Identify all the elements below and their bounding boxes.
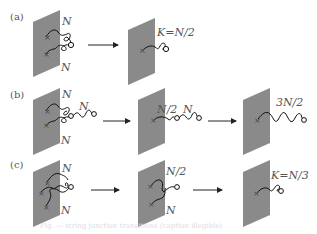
string-endpoint [68, 42, 73, 47]
label-k: K=N/2 [156, 26, 195, 39]
string-endpoint [69, 185, 74, 190]
junction [69, 114, 74, 119]
panel-a1: × × N N [33, 10, 74, 77]
cross-marker: × [44, 107, 51, 116]
label-n-upper: N [61, 162, 72, 175]
label-n: N [165, 204, 176, 217]
string-endpoint [175, 185, 180, 190]
cross-marker: × [43, 50, 50, 59]
cross-marker: × [254, 116, 261, 125]
label-n-lower: N [60, 61, 71, 74]
string-endpoint [302, 118, 307, 123]
label-n-half: N/2 [156, 103, 177, 116]
string-endpoint [163, 46, 168, 51]
junction [175, 116, 180, 121]
panel-c1: × × × N N [33, 160, 73, 227]
cross-marker: × [44, 179, 51, 188]
label-n-lower: N [60, 204, 71, 217]
brane-plane [138, 160, 165, 227]
cross-marker: × [150, 116, 157, 125]
cross-marker: × [44, 33, 51, 42]
string-endpoint [92, 112, 97, 117]
cross-marker: × [139, 46, 146, 55]
panel-c2: × × N/2 N [138, 160, 186, 227]
panel-a2: × K=N/2 [128, 18, 195, 85]
panel-b3: × 3N/2 [243, 88, 306, 155]
cross-marker: × [253, 189, 260, 198]
label-3n-half: 3N/2 [276, 96, 303, 109]
brane-plane [33, 10, 60, 77]
panel-c3: × K=N/3 [243, 160, 309, 227]
row-label-a: (a) [10, 11, 24, 22]
label-n-upper: N [61, 15, 72, 28]
cross-marker: × [148, 200, 155, 209]
row-label-c: (c) [10, 159, 24, 170]
label-n-half: N/2 [165, 165, 186, 178]
label-n-free: N [78, 100, 89, 113]
label-n-upper: N [61, 88, 72, 101]
cross-marker: × [38, 189, 45, 198]
string-endpoint [279, 189, 284, 194]
label-n-lower: N [60, 134, 71, 147]
row-label-b: (b) [10, 89, 24, 100]
diagram-figure: (a) × × N N × K=N/2 (b) × × N N N [0, 0, 317, 234]
cross-marker: × [43, 121, 50, 130]
figure-caption: Fig. — string junction transitions (capt… [40, 222, 275, 230]
string-endpoint [197, 116, 202, 121]
label-k: K=N/3 [270, 169, 309, 182]
cross-marker: × [147, 182, 154, 191]
label-n: N [182, 103, 193, 116]
cross-marker: × [43, 203, 50, 212]
panel-b1: × × N N N [33, 88, 96, 155]
panel-b2: × N/2 N [138, 88, 201, 155]
